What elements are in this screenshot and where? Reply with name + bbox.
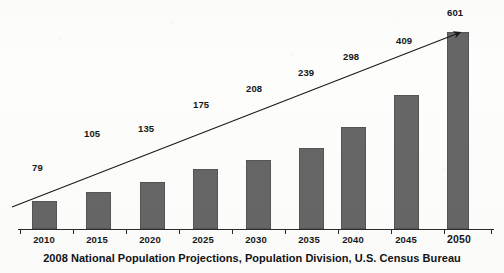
bar-2020 bbox=[140, 182, 165, 229]
value-label-2050: 601 bbox=[447, 8, 463, 18]
bar-2030 bbox=[246, 160, 271, 229]
x-axis-tick bbox=[285, 230, 286, 234]
x-axis-tick bbox=[491, 230, 492, 234]
x-tick-label-2015: 2015 bbox=[77, 235, 117, 245]
chart-caption: 2008 National Population Projections, Po… bbox=[0, 252, 504, 264]
bar-2035 bbox=[299, 148, 324, 229]
x-axis-tick bbox=[179, 230, 180, 234]
x-axis-tick bbox=[20, 230, 21, 234]
chart-screenshot: 79 105 135 175 208 239 298 409 601 2010 … bbox=[0, 0, 504, 273]
value-label-2020: 135 bbox=[138, 124, 154, 134]
value-label-2045: 409 bbox=[396, 36, 412, 46]
x-axis-tick bbox=[338, 230, 339, 234]
value-label-2010: 79 bbox=[32, 163, 43, 173]
bar-2015 bbox=[86, 192, 111, 229]
bar-2040 bbox=[341, 127, 366, 229]
x-tick-label-2025: 2025 bbox=[183, 235, 223, 245]
x-tick-label-2050: 2050 bbox=[437, 234, 481, 245]
value-label-2025: 175 bbox=[193, 100, 209, 110]
x-tick-label-2020: 2020 bbox=[130, 235, 170, 245]
value-label-2015: 105 bbox=[84, 129, 100, 139]
x-tick-label-2030: 2030 bbox=[236, 235, 276, 245]
value-label-2040: 298 bbox=[343, 52, 359, 62]
x-axis-line bbox=[18, 229, 494, 230]
x-axis-tick bbox=[391, 230, 392, 234]
bar-2045 bbox=[394, 95, 419, 229]
x-axis-tick bbox=[126, 230, 127, 234]
x-axis-tick bbox=[232, 230, 233, 234]
bar-2025 bbox=[193, 169, 218, 229]
bar-2010 bbox=[32, 201, 57, 229]
x-tick-label-2010: 2010 bbox=[24, 235, 64, 245]
bar-2050 bbox=[447, 32, 469, 229]
x-tick-label-2045: 2045 bbox=[386, 235, 426, 245]
value-label-2035: 239 bbox=[298, 68, 314, 78]
value-label-2030: 208 bbox=[246, 84, 262, 94]
x-axis-tick bbox=[73, 230, 74, 234]
chart-plot-area: 79 105 135 175 208 239 298 409 601 2010 … bbox=[0, 0, 504, 273]
x-tick-label-2040: 2040 bbox=[333, 235, 373, 245]
x-tick-label-2035: 2035 bbox=[289, 235, 329, 245]
